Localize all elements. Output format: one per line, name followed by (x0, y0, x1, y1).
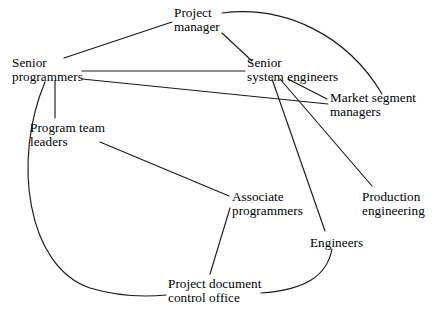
node-project-document-control-office-line1: Project document (168, 277, 261, 291)
node-program-team-leaders-line2: leaders (30, 135, 105, 149)
node-project-manager: Project manager (174, 6, 220, 33)
node-engineers: Engineers (310, 236, 363, 250)
node-senior-system-engineers: Senior system engineers (247, 56, 338, 83)
node-project-manager-line1: Project (174, 6, 220, 20)
node-senior-programmers: Senior programmers (12, 56, 83, 83)
node-associate-programmers: Associate programmers (232, 190, 303, 217)
org-network-diagram: Project manager Senior programmers Senio… (0, 0, 437, 324)
edge-program-team-leaders-associate-programmers (100, 142, 229, 196)
node-production-engineering: Production engineering (362, 190, 425, 217)
edge-senior-programmers-project-manager (64, 22, 172, 58)
edge-senior-programmers-project-document-control-office (28, 82, 166, 296)
edge-associate-programmers-project-document-control-office (210, 208, 230, 274)
node-associate-programmers-line2: programmers (232, 204, 303, 218)
node-senior-system-engineers-line1: Senior (247, 56, 338, 70)
node-production-engineering-line2: engineering (362, 204, 425, 218)
node-associate-programmers-line1: Associate (232, 190, 303, 204)
node-project-manager-line2: manager (174, 20, 220, 34)
node-senior-programmers-line2: programmers (12, 70, 83, 84)
node-program-team-leaders: Program team leaders (30, 121, 105, 148)
edge-engineers-project-document-control-office (261, 249, 332, 293)
node-program-team-leaders-line1: Program team (30, 121, 105, 135)
node-engineers-line1: Engineers (310, 236, 363, 250)
node-market-segment-managers-line2: managers (330, 105, 416, 119)
node-project-document-control-office-line2: control office (168, 291, 261, 305)
node-senior-system-engineers-line2: system engineers (247, 70, 338, 84)
node-market-segment-managers-line1: Market segment (330, 91, 416, 105)
node-market-segment-managers: Market segment managers (330, 91, 416, 118)
node-production-engineering-line1: Production (362, 190, 425, 204)
node-senior-programmers-line1: Senior (12, 56, 83, 70)
node-project-document-control-office: Project document control office (168, 277, 261, 304)
